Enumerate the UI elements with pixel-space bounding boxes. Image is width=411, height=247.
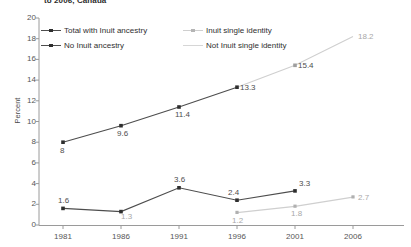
- legend-label-inuit-single-identity: Inuit single identity: [206, 26, 276, 35]
- legend-marker-total-with-inuit-ancestry: [41, 26, 61, 35]
- chart-legend: Total with Inuit ancestry Inuit single i…: [41, 23, 331, 53]
- legend-marker-inuit-single-identity: [183, 26, 203, 35]
- legend-label-no-inuit-ancestry: No Inuit ancestry: [64, 41, 128, 50]
- label-total-1996: 13.3: [240, 83, 256, 92]
- point-single-2001: [293, 64, 297, 68]
- legend-item-no-inuit-ancestry[interactable]: No Inuit ancestry: [41, 41, 183, 50]
- legend-row-1: Total with Inuit ancestry Inuit single i…: [41, 23, 331, 38]
- series-line-no-inuit-ancestry: [63, 188, 295, 212]
- label-noanc-1986: 1.3: [121, 212, 132, 221]
- legend-item-inuit-single-identity[interactable]: Inuit single identity: [183, 26, 276, 35]
- series-points-no-inuit-ancestry: [61, 186, 297, 213]
- legend-marker-no-inuit-ancestry: [41, 41, 61, 50]
- label-single-2001: 15.4: [298, 61, 314, 70]
- label-total-1986: 9.6: [117, 129, 128, 138]
- y-tick-marks: [36, 18, 40, 225]
- legend-item-total-with-inuit-ancestry[interactable]: Total with Inuit ancestry: [41, 26, 183, 35]
- label-noanc-1981: 1.6: [58, 196, 69, 205]
- label-noanc-2001: 3.3: [299, 179, 310, 188]
- label-notsingle-2001: 1.8: [291, 209, 302, 218]
- label-notsingle-1996: 1.2: [232, 216, 243, 225]
- label-single-2006: 18.2: [358, 32, 374, 41]
- legend-row-2: No Inuit ancestry Not Inuit single ident…: [41, 38, 331, 53]
- label-notsingle-2006: 2.7: [358, 193, 369, 202]
- legend-label-total-with-inuit-ancestry: Total with Inuit ancestry: [64, 26, 151, 35]
- series-line-total-with-inuit-ancestry: [63, 87, 237, 142]
- x-tick-marks: [63, 226, 353, 230]
- label-total-1981: 8: [60, 146, 64, 155]
- label-noanc-1991: 3.6: [174, 175, 185, 184]
- legend-item-not-inuit-single-identity[interactable]: Not Inuit single identity: [183, 41, 291, 50]
- label-total-1991: 11.4: [175, 110, 190, 119]
- label-noanc-1996: 2.4: [228, 188, 239, 197]
- legend-marker-not-inuit-single-identity: [183, 41, 203, 50]
- legend-label-not-inuit-single-identity: Not Inuit single identity: [206, 41, 291, 50]
- line-chart: to 2006, Canada Percent 20 18 16 14 12 1…: [0, 0, 411, 247]
